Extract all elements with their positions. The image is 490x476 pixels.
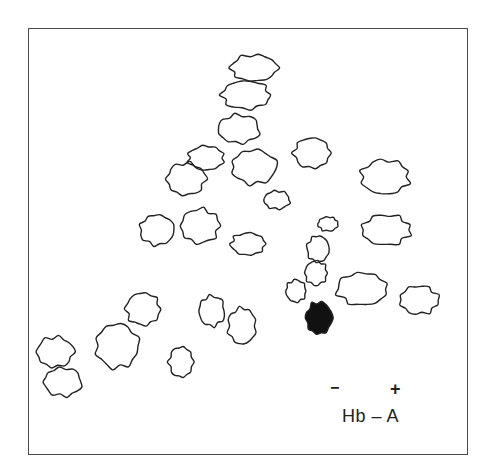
peptide-spot [230,233,266,256]
peptide-spot [36,335,75,368]
peptide-spot [227,306,256,344]
peptide-spot [232,149,278,186]
peptide-spot [335,272,387,304]
hb-a-spot [305,301,333,334]
peptide-spot [165,161,207,196]
peptide-spot [305,260,328,285]
peptide-spot [229,54,280,81]
peptide-spot [218,113,260,144]
peptide-spot [139,215,174,247]
positive-pole-label: + [390,379,401,400]
peptide-spot [306,236,329,263]
peptide-spot [180,207,220,244]
peptide-spot [400,286,440,314]
peptide-spot [264,190,291,210]
peptide-spot [286,279,306,302]
peptide-spot [199,294,225,327]
peptide-spot [318,217,338,231]
peptide-spot [361,215,411,245]
peptide-spot [95,323,139,369]
sample-label: Hb – A [342,406,399,427]
peptide-spot [187,145,224,170]
peptide-spot [43,367,82,398]
spot-map [0,0,490,476]
peptide-spot [360,159,411,194]
peptide-spot [292,138,332,169]
peptide-spot [167,346,194,377]
negative-pole-label: − [330,379,339,397]
peptide-spot [124,293,161,326]
peptide-spot [219,81,270,110]
